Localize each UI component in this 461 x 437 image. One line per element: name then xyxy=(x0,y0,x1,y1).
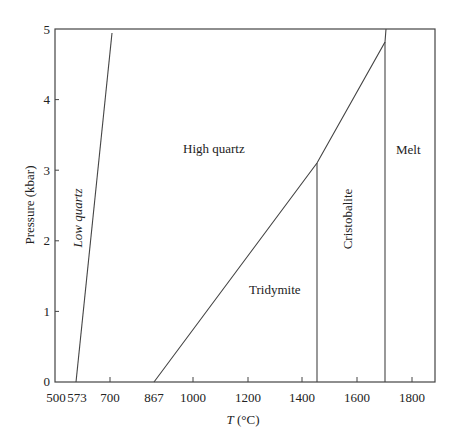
y-tick-label: 1 xyxy=(44,304,51,319)
x-tick-label: 500 xyxy=(46,390,66,405)
x-axis-title: T (°C) xyxy=(226,412,259,427)
phase-diagram: 0 1 2 3 4 5 500 573 700 867 1000 1200 14… xyxy=(0,0,461,437)
x-tick-label: 700 xyxy=(100,390,120,405)
region-label-high-quartz: High quartz xyxy=(183,141,245,156)
y-tick-label: 0 xyxy=(44,374,51,389)
region-label-tridymite: Tridymite xyxy=(249,282,301,297)
y-tick-label: 3 xyxy=(44,163,51,178)
x-tick-label: 1200 xyxy=(235,390,261,405)
x-tick-label: 1600 xyxy=(344,390,370,405)
region-label-melt: Melt xyxy=(396,142,421,157)
region-label-cristobalite: Cristobalite xyxy=(340,188,355,249)
x-axis-title-unit: (°C) xyxy=(234,412,260,427)
x-tick-label: 573 xyxy=(67,390,87,405)
region-label-low-quartz: Low quartz xyxy=(70,189,85,249)
y-tick-label: 5 xyxy=(44,22,51,37)
x-tick-label: 1800 xyxy=(399,390,425,405)
x-tick-label: 867 xyxy=(144,390,164,405)
y-tick-label: 4 xyxy=(44,92,51,107)
y-tick-label: 2 xyxy=(44,233,51,248)
x-tick-label: 1000 xyxy=(180,390,206,405)
x-tick-label: 1400 xyxy=(289,390,315,405)
y-axis-title: Pressure (kbar) xyxy=(22,165,37,244)
plot-frame xyxy=(55,29,435,382)
